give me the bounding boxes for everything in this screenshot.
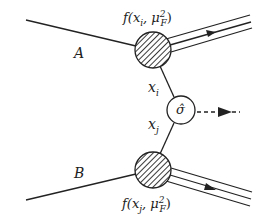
parton-xj-label: xj — [148, 117, 159, 135]
hard-cross-section-label: σ̂ — [176, 103, 185, 116]
pdf-b-label: f(xj, μ2F) — [122, 196, 171, 214]
parton-j-line — [160, 123, 174, 154]
parton-i-line — [160, 66, 174, 97]
hadron-a-line — [26, 20, 136, 46]
remnant-a-arrow-icon — [206, 30, 216, 37]
hadron-a-label: A — [74, 46, 84, 60]
parton-xi-label: xi — [148, 80, 159, 98]
final-state-arrow-icon — [218, 107, 232, 117]
factorization-diagram — [0, 0, 272, 220]
pdf-b-blob — [135, 152, 171, 188]
pdf-a-label: f(xi, μ2F) — [123, 10, 172, 28]
hadron-b-label: B — [74, 166, 84, 180]
pdf-a-blob — [135, 32, 171, 68]
remnant-b-arrow-icon — [204, 183, 216, 190]
